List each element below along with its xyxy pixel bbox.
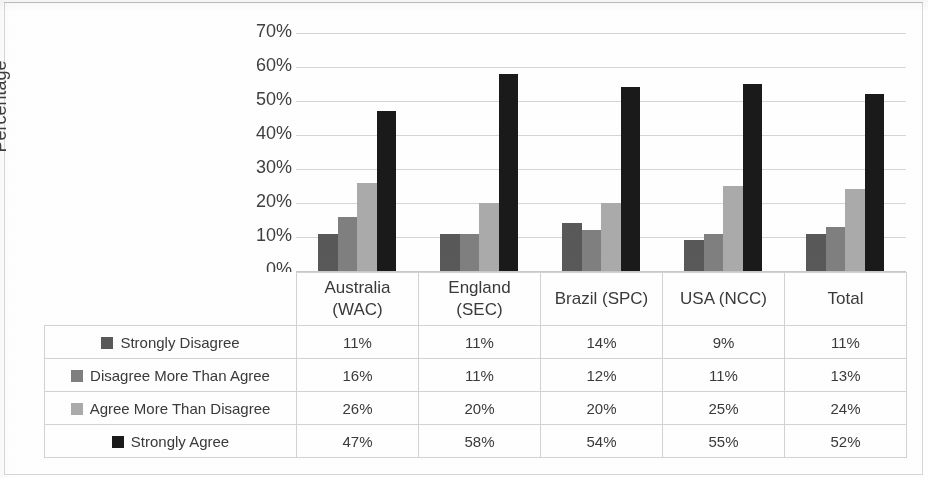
y-tick-label-50%: 50% xyxy=(222,89,292,110)
table-row: Strongly Disagree11%11%14%9%11% xyxy=(45,326,907,359)
data-cell: 24% xyxy=(785,392,907,425)
bar xyxy=(562,223,582,271)
bar-slot xyxy=(582,33,602,271)
bar xyxy=(704,234,724,271)
data-cell: 9% xyxy=(663,326,785,359)
bar xyxy=(621,87,641,271)
data-cell: 20% xyxy=(541,392,663,425)
bar xyxy=(582,230,602,271)
data-cell: 47% xyxy=(297,425,419,458)
table-row: Strongly Agree47%58%54%55%52% xyxy=(45,425,907,458)
bar-slot xyxy=(704,33,724,271)
legend-entry[interactable]: Disagree More Than Agree xyxy=(45,359,297,392)
data-cell: 11% xyxy=(785,326,907,359)
bar-group xyxy=(418,33,540,271)
legend-label: Strongly Disagree xyxy=(120,334,239,351)
y-tick-label-20%: 20% xyxy=(222,191,292,212)
bar-slot xyxy=(684,33,704,271)
data-cell: 14% xyxy=(541,326,663,359)
bar xyxy=(806,234,826,271)
legend-entry[interactable]: Strongly Agree xyxy=(45,425,297,458)
category-header-line: (SEC) xyxy=(419,299,540,321)
bar xyxy=(377,111,397,271)
bar-slot xyxy=(806,33,826,271)
bar-slot xyxy=(743,33,763,271)
top-cut-rule xyxy=(4,2,923,3)
category-header-line: Total xyxy=(785,288,906,310)
bar xyxy=(338,217,358,271)
bar-slot xyxy=(601,33,621,271)
bar xyxy=(460,234,480,271)
legend-label: Strongly Agree xyxy=(131,433,229,450)
category-header-cell: Brazil (SPC) xyxy=(541,273,663,326)
bar-slot xyxy=(826,33,846,271)
bar xyxy=(684,240,704,271)
bar-slot xyxy=(338,33,358,271)
bar xyxy=(499,74,519,271)
bar-slot xyxy=(562,33,582,271)
category-header-cell: USA (NCC) xyxy=(663,273,785,326)
bar-slot xyxy=(723,33,743,271)
plot-area: 0%10%20%30%40%50%60%70% xyxy=(296,10,906,272)
data-cell: 16% xyxy=(297,359,419,392)
table-body: Strongly Disagree11%11%14%9%11%Disagree … xyxy=(45,326,907,458)
bar-group xyxy=(540,33,662,271)
category-header-cell: England(SEC) xyxy=(419,273,541,326)
bar-slot xyxy=(499,33,519,271)
legend-entry[interactable]: Strongly Disagree xyxy=(45,326,297,359)
data-cell: 12% xyxy=(541,359,663,392)
bar-slot xyxy=(479,33,499,271)
bar xyxy=(845,189,865,271)
category-header-cell: Total xyxy=(785,273,907,326)
data-cell: 54% xyxy=(541,425,663,458)
data-cell: 11% xyxy=(663,359,785,392)
bar-slot xyxy=(865,33,885,271)
bar-group xyxy=(296,33,418,271)
data-cell: 11% xyxy=(419,326,541,359)
data-cell: 52% xyxy=(785,425,907,458)
bar xyxy=(826,227,846,271)
data-cell: 55% xyxy=(663,425,785,458)
bar xyxy=(357,183,377,271)
y-tick-label-60%: 60% xyxy=(222,55,292,76)
data-cell: 11% xyxy=(297,326,419,359)
bar-slot xyxy=(440,33,460,271)
data-table: Australia(WAC)England(SEC)Brazil (SPC)US… xyxy=(44,272,907,458)
bar xyxy=(865,94,885,271)
legend-swatch-icon xyxy=(112,436,124,448)
bar-slot xyxy=(377,33,397,271)
legend-label: Agree More Than Disagree xyxy=(90,400,271,417)
category-header-line: England xyxy=(419,277,540,299)
bar xyxy=(479,203,499,271)
table-head: Australia(WAC)England(SEC)Brazil (SPC)US… xyxy=(45,273,907,326)
category-header-line: USA (NCC) xyxy=(663,288,784,310)
data-cell: 13% xyxy=(785,359,907,392)
bar-slot xyxy=(621,33,641,271)
chart-figure: Percentage 0%10%20%30%40%50%60%70% Austr… xyxy=(0,0,928,478)
category-header-line: Brazil (SPC) xyxy=(541,288,662,310)
data-cell: 58% xyxy=(419,425,541,458)
legend-swatch-icon xyxy=(101,337,113,349)
bar xyxy=(318,234,338,271)
bar-slot xyxy=(460,33,480,271)
legend-swatch-icon xyxy=(71,403,83,415)
y-axis-title: Percentage xyxy=(0,7,11,207)
bar xyxy=(601,203,621,271)
category-header-row: Australia(WAC)England(SEC)Brazil (SPC)US… xyxy=(45,273,907,326)
y-tick-label-10%: 10% xyxy=(222,225,292,246)
bar-group xyxy=(662,33,784,271)
bar xyxy=(723,186,743,271)
legend-entry[interactable]: Agree More Than Disagree xyxy=(45,392,297,425)
category-header-cell: Australia(WAC) xyxy=(297,273,419,326)
plot-region: 0%10%20%30%40%50%60%70% xyxy=(296,10,906,272)
table-row: Agree More Than Disagree26%20%20%25%24% xyxy=(45,392,907,425)
y-tick-label-30%: 30% xyxy=(222,157,292,178)
table-row: Disagree More Than Agree16%11%12%11%13% xyxy=(45,359,907,392)
y-tick-label-70%: 70% xyxy=(222,21,292,42)
legend-label: Disagree More Than Agree xyxy=(90,367,270,384)
data-cell: 11% xyxy=(419,359,541,392)
bar-slot xyxy=(845,33,865,271)
bar xyxy=(440,234,460,271)
legend-swatch-icon xyxy=(71,370,83,382)
bar xyxy=(743,84,763,271)
